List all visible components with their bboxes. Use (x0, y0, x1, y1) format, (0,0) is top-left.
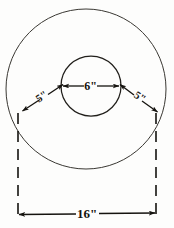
technical-drawing-canvas: 6" 5" 5" 16" (0, 0, 174, 228)
overall-width-arrow-left (19, 214, 76, 215)
overall-width-arrow-right (99, 213, 155, 214)
right-annulus-label: 5" (132, 88, 148, 104)
right-annulus-arrow-inner (120, 85, 134, 96)
inner-diameter-label: 6" (84, 79, 97, 93)
dimension-drawing: 6" 5" 5" 16" (0, 0, 174, 228)
right-annulus-arrow-outer (142, 101, 158, 112)
overall-width-label: 16" (77, 206, 97, 221)
